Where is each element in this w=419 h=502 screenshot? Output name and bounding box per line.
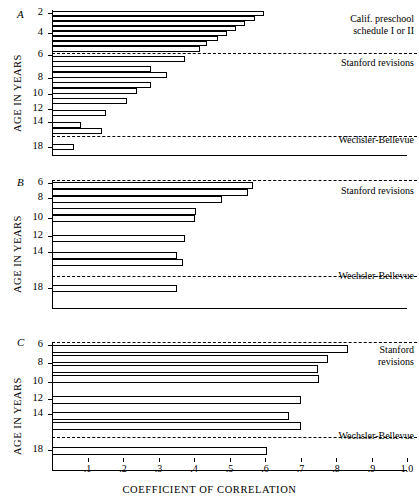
- ytick-a-2: [48, 13, 53, 14]
- ytick-label-a-10: 10: [19, 88, 43, 98]
- bar-b-2: [52, 196, 222, 203]
- bar-b-0: [52, 182, 253, 189]
- panel-b-xaxis: [52, 308, 407, 309]
- ytick-a-18: [48, 147, 53, 148]
- ytick-label-c-18: 18: [19, 444, 43, 454]
- ytick-label-c-10: 10: [19, 376, 43, 386]
- ytick-label-b-6: 6: [19, 177, 43, 187]
- panel-a-legend-stanford: Stanford revisions: [259, 57, 414, 69]
- xtick-.1: [88, 458, 89, 462]
- bar-a-17: [52, 144, 74, 150]
- xtick-.9: [372, 458, 373, 462]
- ytick-b-6: [48, 183, 53, 184]
- ytick-label-c-14: 14: [19, 408, 43, 418]
- ytick-label-b-14: 14: [19, 246, 43, 256]
- xtick-label-.2: .2: [111, 463, 135, 474]
- bar-b-8: [52, 285, 177, 292]
- xtick-label-1.0: 1.0: [395, 463, 419, 474]
- ytick-label-a-6: 6: [19, 49, 43, 59]
- group-divider-b-0: [52, 180, 417, 181]
- ytick-a-4: [48, 33, 53, 34]
- ytick-label-a-14: 14: [19, 116, 43, 126]
- ytick-a-6: [48, 55, 53, 56]
- xtick-.2: [123, 458, 124, 462]
- bar-c-7: [52, 447, 267, 455]
- ytick-c-12: [48, 399, 53, 400]
- xtick-.5: [230, 458, 231, 462]
- ytick-b-8: [48, 198, 53, 199]
- ytick-label-c-12: 12: [19, 393, 43, 403]
- bar-a-16: [52, 128, 102, 134]
- xtick-label-.1: .1: [76, 463, 100, 474]
- group-divider-a-0: [52, 53, 417, 54]
- panel-a: A AGE IN YEARS 246810121418 Calif. presc…: [0, 0, 419, 160]
- bar-a-14: [52, 110, 106, 116]
- ytick-label-a-8: 8: [19, 72, 43, 82]
- bar-b-5: [52, 235, 185, 242]
- xtick-label-.4: .4: [182, 463, 206, 474]
- panel-c-legend-stanford: Stanford revisions: [259, 344, 414, 367]
- ytick-label-a-12: 12: [19, 103, 43, 113]
- panel-b-legend-stanford: Stanford revisions: [259, 185, 414, 197]
- xtick-.3: [159, 458, 160, 462]
- bar-c-4: [52, 396, 301, 404]
- xtick-label-.5: .5: [218, 463, 242, 474]
- ytick-a-8: [48, 78, 53, 79]
- bar-b-6: [52, 252, 177, 259]
- ytick-c-6: [48, 345, 53, 346]
- ytick-c-14: [48, 414, 53, 415]
- bar-c-3: [52, 375, 319, 383]
- xtick-label-.3: .3: [147, 463, 171, 474]
- ytick-b-12: [48, 236, 53, 237]
- ytick-label-a-2: 2: [19, 7, 43, 17]
- ytick-label-b-10: 10: [19, 212, 43, 222]
- ytick-label-b-18: 18: [19, 282, 43, 292]
- ytick-c-18: [48, 450, 53, 451]
- xtick-.4: [194, 458, 195, 462]
- bar-a-10: [52, 72, 167, 78]
- xtick-label-.7: .7: [289, 463, 313, 474]
- panel-a-xaxis: [52, 155, 407, 156]
- ytick-label-c-8: 8: [19, 357, 43, 367]
- ytick-b-14: [48, 252, 53, 253]
- bar-a-8: [52, 56, 185, 62]
- panel-a-legend-calif: Calif. preschool schedule I or II: [259, 13, 414, 36]
- ytick-label-b-12: 12: [19, 230, 43, 240]
- x-axis-title: COEFFICIENT OF CORRELATION: [0, 484, 419, 495]
- bar-a-7: [52, 46, 200, 52]
- xtick-label-.8: .8: [324, 463, 348, 474]
- ytick-a-14: [48, 122, 53, 123]
- bar-a-12: [52, 88, 137, 94]
- bar-b-4: [52, 215, 195, 222]
- ytick-c-10: [48, 382, 53, 383]
- bar-b-1: [52, 189, 248, 196]
- ytick-b-18: [48, 288, 53, 289]
- bar-a-13: [52, 98, 127, 104]
- xtick-.8: [336, 458, 337, 462]
- bar-c-5: [52, 412, 289, 420]
- bar-c-6: [52, 422, 301, 430]
- xtick-label-.6: .6: [253, 463, 277, 474]
- xtick-.7: [301, 458, 302, 462]
- xtick-label-.9: .9: [360, 463, 384, 474]
- ytick-label-c-6: 6: [19, 339, 43, 349]
- panel-a-legend-wechsler: Wechsler-Bellevue: [259, 134, 414, 146]
- panel-b: B AGE IN YEARS 6810121418 Stanford revis…: [0, 168, 419, 313]
- bar-b-7: [52, 259, 183, 266]
- panel-c: C AGE IN YEARS 6810121418 Stanford revis…: [0, 330, 419, 475]
- ytick-b-10: [48, 218, 53, 219]
- panel-b-legend-wechsler: Wechsler-Bellevue: [259, 270, 414, 282]
- ytick-c-8: [48, 363, 53, 364]
- panel-b-plot: 6810121418: [52, 180, 407, 308]
- ytick-label-a-18: 18: [19, 141, 43, 151]
- xtick-1.0: [407, 458, 408, 462]
- x-axis-area: .1.2.3.4.5.6.7.8.91.0: [0, 458, 419, 502]
- group-divider-c-0: [52, 342, 417, 343]
- figure-root: A AGE IN YEARS 246810121418 Calif. presc…: [0, 0, 419, 502]
- ytick-a-12: [48, 109, 53, 110]
- panel-c-legend-wechsler: Wechsler-Bellevue: [259, 430, 414, 442]
- ytick-a-10: [48, 94, 53, 95]
- ytick-label-b-8: 8: [19, 192, 43, 202]
- bar-b-3: [52, 208, 196, 215]
- xtick-.6: [265, 458, 266, 462]
